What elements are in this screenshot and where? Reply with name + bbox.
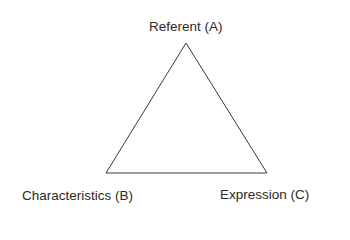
label-characteristics: Characteristics (B) xyxy=(22,189,133,203)
label-expression: Expression (C) xyxy=(220,188,309,202)
triangle-shape xyxy=(106,43,267,173)
label-referent: Referent (A) xyxy=(149,20,223,34)
